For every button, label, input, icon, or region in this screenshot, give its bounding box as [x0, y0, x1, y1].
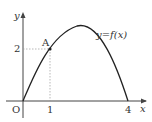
- curve-label: y=f(x): [95, 29, 127, 40]
- y-tick-2: 2: [14, 43, 20, 54]
- function-graph: y x O 1 4 2 A y=f(x): [0, 0, 152, 122]
- origin-label: O: [12, 104, 20, 115]
- point-a-label: A: [41, 37, 50, 48]
- x-axis-label: x: [140, 103, 146, 114]
- x-tick-1: 1: [47, 104, 53, 115]
- y-axis-arrow-icon: [21, 12, 26, 18]
- y-axis-label: y: [13, 10, 20, 21]
- x-tick-4: 4: [125, 104, 131, 115]
